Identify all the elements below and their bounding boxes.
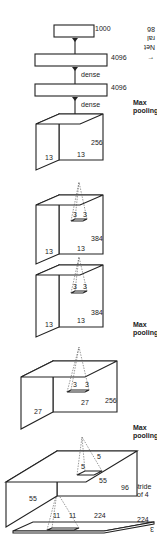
conv4-kernel <box>71 219 87 221</box>
diagram-canvas: ← Net ral 86 3 224 224 11 11 Stride of 4… <box>0 0 157 537</box>
conv3-block: 384 13 13 3 3 <box>36 257 103 337</box>
svg-text:3: 3 <box>73 381 77 388</box>
svg-text:pooling: pooling <box>133 329 157 337</box>
input-kernel <box>47 528 79 530</box>
svg-text:Net: Net <box>144 44 155 51</box>
svg-text:3: 3 <box>85 381 89 388</box>
conv4-w-label: 13 <box>77 245 85 252</box>
conv5-w-label: 13 <box>77 151 85 158</box>
conv1-w-label: 55 <box>99 477 107 484</box>
caption-arrow-icon: ← <box>147 56 154 63</box>
arrow-icon <box>72 38 78 42</box>
dense1-label: dense <box>81 101 100 108</box>
svg-text:pooling: pooling <box>133 107 157 115</box>
stride-value-label: of 4 <box>137 491 149 498</box>
arrow-icon <box>72 97 78 101</box>
output-size: 1000 <box>95 25 111 32</box>
input-width-label: 224 <box>137 516 149 523</box>
conv5-depth-label: 256 <box>91 139 103 146</box>
side-caption: ← Net ral 86 <box>144 26 155 63</box>
dense2-label: dense <box>81 71 100 78</box>
svg-text:3: 3 <box>83 211 87 218</box>
svg-text:3: 3 <box>73 211 77 218</box>
conv5-h-label: 13 <box>45 154 53 161</box>
conv2-block: 256 27 27 3 3 <box>21 347 117 429</box>
svg-text:pooling: pooling <box>133 432 157 440</box>
dense2-size: 4096 <box>111 54 127 61</box>
conv3-depth-label: 384 <box>91 309 103 316</box>
conv3-w-label: 13 <box>77 317 85 324</box>
arrow-icon <box>72 67 78 71</box>
svg-text:5: 5 <box>81 463 85 470</box>
svg-text:11: 11 <box>53 512 60 519</box>
conv2-depth-label: 256 <box>105 397 117 404</box>
conv2-h-label: 27 <box>34 408 42 415</box>
maxpool2-label: Max <box>133 321 147 328</box>
output-box <box>54 25 94 37</box>
conv3-h-label: 13 <box>45 321 53 328</box>
input-depth-label: 3 <box>150 526 154 533</box>
conv3-kernel <box>71 291 87 293</box>
conv4-h-label: 13 <box>45 248 53 255</box>
conv4-depth-label: 384 <box>91 235 103 242</box>
conv4-block: 384 13 13 3 3 <box>36 182 103 264</box>
dense-stack: dense 4096 dense 4096 1000 <box>35 25 127 114</box>
conv1-depth-label: 96 <box>121 484 129 491</box>
svg-text:11: 11 <box>69 512 76 519</box>
conv1-h-label: 55 <box>29 495 37 502</box>
alexnet-diagram: ← Net ral 86 3 224 224 11 11 Stride of 4… <box>0 0 157 537</box>
maxpool1-label: Max <box>133 424 147 431</box>
svg-text:5: 5 <box>97 453 101 460</box>
maxpool3-label: Max <box>133 99 147 106</box>
input-height-label: 224 <box>94 512 106 519</box>
conv2-kernel <box>67 390 89 392</box>
svg-text:86: 86 <box>147 26 155 33</box>
conv5-block: 256 13 13 <box>36 114 103 170</box>
dense1-box <box>35 84 107 96</box>
svg-text:3: 3 <box>83 283 87 290</box>
conv2-w-label: 27 <box>81 399 89 406</box>
svg-text:ral: ral <box>147 35 155 42</box>
dense2-box <box>35 54 107 66</box>
dense1-size: 4096 <box>111 84 127 91</box>
svg-text:3: 3 <box>73 283 77 290</box>
